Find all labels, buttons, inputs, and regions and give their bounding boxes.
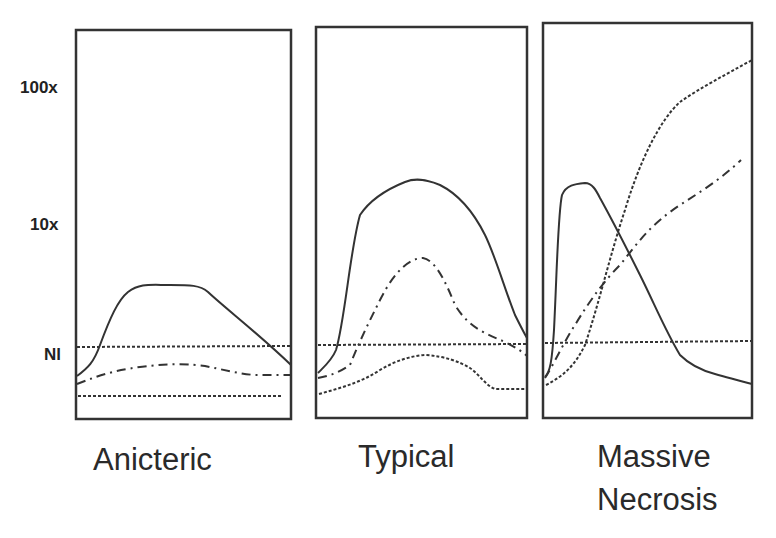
series-dotted [319, 355, 525, 394]
panel-label-typical: Typical [358, 437, 454, 477]
normal-reference-line [545, 341, 752, 343]
panel-typical [316, 27, 527, 418]
series-dash-dot [545, 160, 741, 378]
series-solid [77, 285, 291, 376]
normal-reference-line [318, 344, 527, 345]
panel-label-necrosis: Necrosis [597, 480, 718, 520]
series-dotted [546, 60, 752, 385]
series-solid [545, 183, 752, 384]
panel-anicteric [76, 30, 291, 419]
normal-reference-line [77, 346, 291, 347]
panel-label-massive: Massive [597, 437, 711, 477]
panel-massive-necrosis [543, 23, 752, 418]
panel-label-anicteric: Anicteric [93, 440, 212, 480]
series-dash-dot [77, 364, 291, 384]
